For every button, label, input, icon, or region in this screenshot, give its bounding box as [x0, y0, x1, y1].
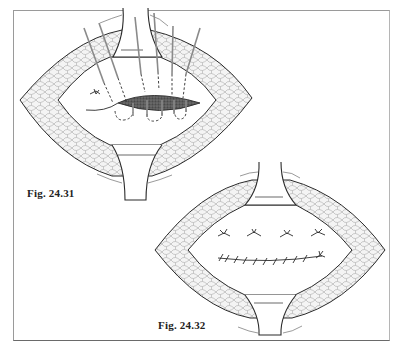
- knot-icon: [280, 230, 293, 237]
- running-suture: [218, 251, 325, 265]
- figure-caption-24-31: Fig. 24.31: [27, 187, 75, 199]
- tissue-edge: [86, 103, 118, 110]
- figure-caption-24-32: Fig. 24.32: [158, 319, 206, 331]
- interrupted-sutures: [218, 229, 325, 237]
- knot-icon: [311, 229, 325, 236]
- knot-icon: [218, 229, 230, 236]
- figure-24-32: [155, 162, 385, 335]
- knot-icon: [90, 89, 100, 94]
- knot-icon: [247, 229, 261, 236]
- illustration: [0, 0, 403, 354]
- figure-24-31: [20, 8, 252, 200]
- wound-defect: [118, 96, 200, 111]
